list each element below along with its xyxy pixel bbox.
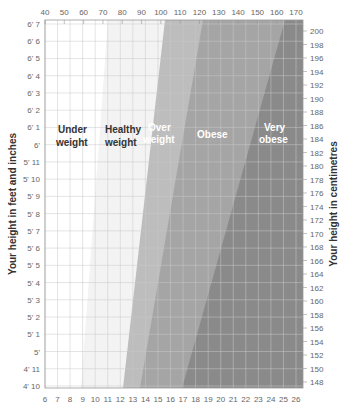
top-tick-label: 70	[98, 8, 107, 17]
top-tick-label: 100	[154, 8, 168, 17]
bottom-tick-label: 18	[191, 395, 200, 404]
left-tick-label: 4' 11	[23, 365, 40, 374]
right-tick-label: 178	[310, 176, 324, 185]
right-axis-cm: 2001981961941921901881861841821801781761…	[303, 27, 324, 387]
right-tick-label: 190	[310, 95, 324, 104]
bottom-tick-label: 12	[116, 395, 125, 404]
label-underweight-2: weight	[55, 137, 88, 148]
right-tick-label: 168	[310, 243, 324, 252]
top-tick-label: 130	[212, 8, 226, 17]
left-tick-label: 6' 3	[27, 89, 40, 98]
label-overweight: Over	[148, 122, 171, 133]
top-tick-label: 160	[270, 8, 284, 17]
right-tick-label: 180	[310, 162, 324, 171]
bottom-tick-label: 15	[153, 395, 162, 404]
right-tick-label: 174	[310, 203, 324, 212]
left-tick-label: 5' 3	[27, 296, 40, 305]
bottom-tick-label: 11	[104, 395, 113, 404]
right-tick-label: 152	[310, 351, 324, 360]
bottom-tick-label: 10	[91, 395, 100, 404]
right-tick-label: 156	[310, 324, 324, 333]
left-tick-label: 6' 2	[27, 106, 40, 115]
label-obese: Obese	[197, 129, 228, 140]
bottom-tick-label: 20	[216, 395, 225, 404]
left-tick-label: 6' 4	[27, 72, 40, 81]
top-tick-label: 140	[231, 8, 245, 17]
zones	[45, 20, 303, 388]
top-tick-label: 60	[79, 8, 88, 17]
left-tick-label: 5' 7	[27, 227, 40, 236]
right-tick-label: 160	[310, 297, 324, 306]
label-healthy-2: weight	[104, 137, 137, 148]
left-tick-label: 6' 5	[27, 54, 40, 63]
right-tick-label: 154	[310, 338, 324, 347]
left-tick-label: 5' 2	[27, 313, 40, 322]
left-tick-label: 4' 10	[23, 382, 41, 391]
left-tick-label: 5' 10	[23, 175, 41, 184]
top-tick-label: 110	[174, 8, 187, 17]
left-tick-label: 6' 6	[27, 37, 40, 46]
left-axis-feet: 6' 76' 66' 56' 46' 36' 26' 16'5' 115' 10…	[23, 20, 41, 391]
right-tick-label: 184	[310, 135, 324, 144]
bottom-tick-label: 14	[141, 395, 150, 404]
bottom-tick-label: 22	[241, 395, 250, 404]
right-tick-label: 194	[310, 68, 324, 77]
left-tick-label: 5' 8	[27, 210, 40, 219]
label-overweight-2: weight	[142, 134, 175, 145]
bottom-tick-label: 13	[128, 395, 137, 404]
left-tick-label: 5' 4	[27, 279, 40, 288]
top-tick-label: 170	[289, 8, 303, 17]
left-tick-label: 5'	[34, 348, 40, 357]
left-tick-label: 5' 9	[27, 192, 40, 201]
right-tick-label: 196	[310, 54, 324, 63]
top-tick-label: 80	[118, 8, 127, 17]
top-tick-label: 40	[41, 8, 50, 17]
bottom-tick-label: 19	[204, 395, 213, 404]
right-tick-label: 198	[310, 41, 324, 50]
right-tick-label: 188	[310, 108, 324, 117]
right-tick-label: 170	[310, 230, 324, 239]
left-tick-label: 5' 11	[23, 158, 40, 167]
bottom-tick-label: 24	[266, 395, 275, 404]
right-tick-label: 162	[310, 284, 324, 293]
right-axis-title: Your height in centimetres	[328, 141, 339, 267]
left-tick-label: 6' 7	[27, 20, 40, 29]
left-tick-label: 6'	[34, 141, 40, 150]
right-tick-label: 150	[310, 365, 324, 374]
label-very-obese: Very	[264, 122, 286, 133]
left-axis-title: Your height in feet and inches	[7, 133, 18, 275]
right-tick-label: 172	[310, 216, 324, 225]
left-tick-label: 5' 5	[27, 261, 40, 270]
top-tick-label: 120	[193, 8, 207, 17]
bottom-tick-label: 21	[229, 395, 238, 404]
top-tick-label: 90	[137, 8, 146, 17]
left-tick-label: 5' 6	[27, 244, 40, 253]
right-tick-label: 158	[310, 311, 324, 320]
right-tick-label: 182	[310, 149, 324, 158]
bottom-tick-label: 26	[292, 395, 301, 404]
right-tick-label: 166	[310, 257, 324, 266]
top-tick-label: 50	[60, 8, 69, 17]
bottom-tick-label: 17	[179, 395, 188, 404]
bottom-tick-label: 9	[80, 395, 85, 404]
right-tick-label: 176	[310, 189, 324, 198]
label-very-obese-2: obese	[259, 134, 288, 145]
right-tick-label: 186	[310, 122, 324, 131]
bottom-tick-label: 7	[55, 395, 60, 404]
right-tick-label: 164	[310, 270, 324, 279]
label-underweight: Under	[58, 124, 87, 135]
right-tick-label: 192	[310, 81, 324, 90]
left-tick-label: 6' 1	[27, 123, 40, 132]
top-tick-label: 150	[251, 8, 265, 17]
left-tick-label: 5' 1	[27, 330, 40, 339]
label-healthy: Healthy	[105, 124, 142, 135]
bottom-tick-label: 6	[43, 395, 48, 404]
right-tick-label: 148	[310, 378, 324, 387]
bottom-tick-label: 16	[166, 395, 175, 404]
bottom-tick-label: 23	[254, 395, 263, 404]
right-tick-label: 200	[310, 27, 324, 36]
bottom-axis-stone: 67891011121314151617181920212223242526	[43, 395, 301, 404]
bottom-tick-label: 8	[68, 395, 73, 404]
bmi-chart: 405060708090100110120130140150160170 678…	[0, 0, 343, 415]
bottom-tick-label: 25	[279, 395, 288, 404]
